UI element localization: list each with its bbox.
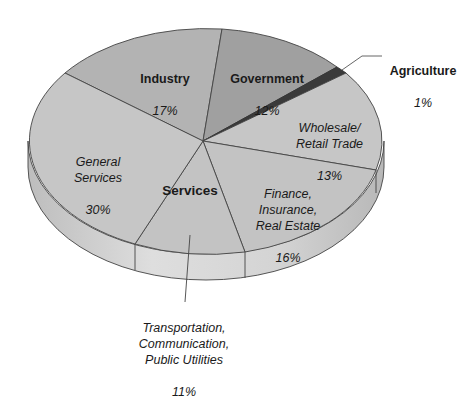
label-agriculture: Agriculture 1% xyxy=(378,47,468,127)
label-general-services: General Services 30% xyxy=(58,138,138,234)
label-finance: Finance, Insurance, Real Estate 16% xyxy=(243,170,333,282)
label-services-name: Services xyxy=(150,183,230,199)
label-finance-pct: 16% xyxy=(243,250,333,266)
label-industry-name: Industry xyxy=(130,71,200,87)
label-services-group: Services xyxy=(150,167,230,215)
label-general-services-name: General Services xyxy=(58,154,138,186)
label-transportation: Transportation, Communication, Public Ut… xyxy=(128,304,240,400)
label-agriculture-pct: 1% xyxy=(378,95,468,111)
label-government-name: Government xyxy=(222,71,312,87)
label-transportation-pct: 11% xyxy=(128,384,240,400)
agriculture-leader-line xyxy=(342,56,382,70)
label-transportation-name: Transportation, Communication, Public Ut… xyxy=(128,320,240,368)
label-agriculture-name: Agriculture xyxy=(378,63,468,79)
label-finance-name: Finance, Insurance, Real Estate xyxy=(243,186,333,234)
label-wholesale-name: Wholesale/ Retail Trade xyxy=(282,120,377,152)
label-industry: Industry 17% xyxy=(130,55,200,135)
label-industry-pct: 17% xyxy=(130,103,200,119)
label-general-services-pct: 30% xyxy=(58,202,138,218)
